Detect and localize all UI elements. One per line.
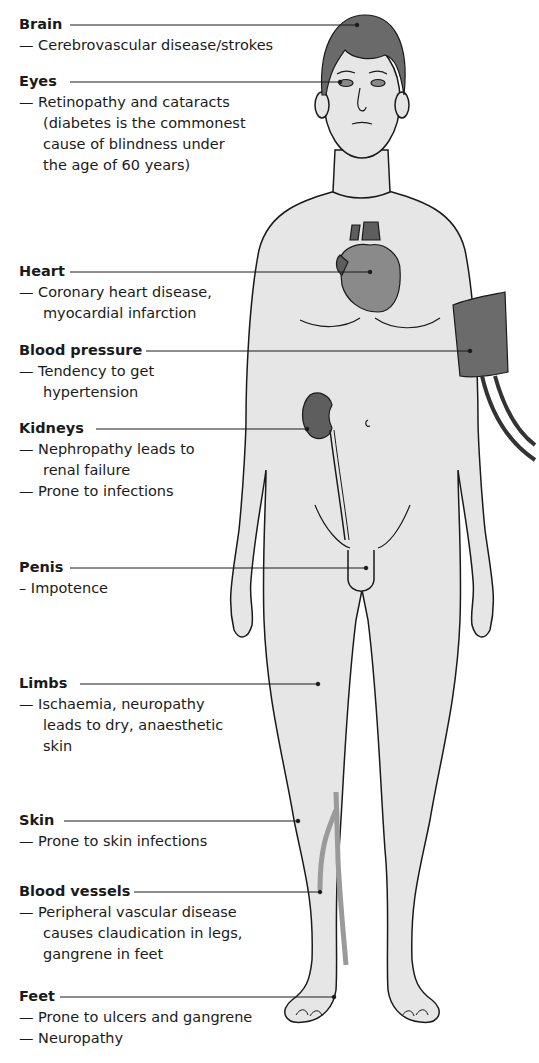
label-eyes: Eyes — Retinopathy and cataracts (diabet… bbox=[19, 71, 246, 176]
label-title: Penis bbox=[19, 557, 67, 578]
label-desc: (diabetes is the commonest bbox=[19, 113, 246, 134]
label-title: Heart bbox=[19, 261, 69, 282]
label-desc: — Tendency to get bbox=[19, 361, 154, 382]
label-desc: cause of blindness under bbox=[19, 134, 246, 155]
label-feet: Feet — Prone to ulcers and gangrene — Ne… bbox=[19, 986, 252, 1049]
label-title: Blood pressure bbox=[19, 340, 146, 361]
label-desc: hypertension bbox=[19, 382, 154, 403]
label-blood-vessels: Blood vessels — Peripheral vascular dise… bbox=[19, 881, 242, 965]
label-title: Feet bbox=[19, 986, 59, 1007]
label-title: Brain bbox=[19, 14, 66, 35]
label-desc: — Peripheral vascular disease bbox=[19, 902, 242, 923]
label-desc: — Coronary heart disease, bbox=[19, 282, 212, 303]
label-penis: Penis – Impotence bbox=[19, 557, 108, 599]
label-desc: the age of 60 years) bbox=[19, 155, 246, 176]
label-title: Skin bbox=[19, 810, 58, 831]
label-desc: gangrene in feet bbox=[19, 944, 242, 965]
diabetes-complications-diagram: Brain — Cerebrovascular disease/strokes … bbox=[0, 0, 539, 1063]
label-desc: — Neuropathy bbox=[19, 1028, 252, 1049]
label-blood-pressure: Blood pressure — Tendency to get hyperte… bbox=[19, 340, 154, 403]
human-body bbox=[231, 42, 494, 1022]
label-title: Eyes bbox=[19, 71, 61, 92]
label-desc: — Cerebrovascular disease/strokes bbox=[19, 35, 273, 56]
label-desc: — Retinopathy and cataracts bbox=[19, 92, 246, 113]
label-desc: — Ischaemia, neuropathy bbox=[19, 694, 223, 715]
label-heart: Heart — Coronary heart disease, myocardi… bbox=[19, 261, 212, 324]
label-title: Limbs bbox=[19, 673, 71, 694]
label-desc: myocardial infarction bbox=[19, 303, 212, 324]
label-title: Kidneys bbox=[19, 418, 88, 439]
label-desc: renal failure bbox=[19, 460, 195, 481]
label-desc: skin bbox=[19, 736, 223, 757]
label-desc: causes claudication in legs, bbox=[19, 923, 242, 944]
label-skin: Skin — Prone to skin infections bbox=[19, 810, 207, 852]
label-desc: — Nephropathy leads to bbox=[19, 439, 195, 460]
label-title: Blood vessels bbox=[19, 881, 134, 902]
label-kidneys: Kidneys — Nephropathy leads to renal fai… bbox=[19, 418, 195, 502]
label-limbs: Limbs — Ischaemia, neuropathy leads to d… bbox=[19, 673, 223, 757]
label-desc: — Prone to infections bbox=[19, 481, 195, 502]
penis-outline bbox=[348, 550, 374, 591]
label-desc: leads to dry, anaesthetic bbox=[19, 715, 223, 736]
label-brain: Brain — Cerebrovascular disease/strokes bbox=[19, 14, 273, 56]
label-desc: — Prone to ulcers and gangrene bbox=[19, 1007, 252, 1028]
label-desc: – Impotence bbox=[19, 578, 108, 599]
label-desc: — Prone to skin infections bbox=[19, 831, 207, 852]
